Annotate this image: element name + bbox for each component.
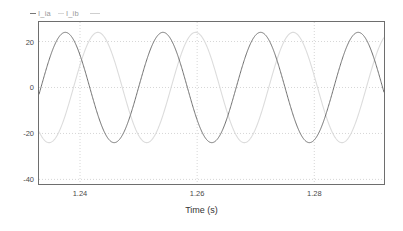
x-tick-label: 1.26 — [177, 189, 217, 198]
x-tick-label: 1.28 — [294, 189, 334, 198]
x-tick-label: 1.24 — [60, 189, 100, 198]
chart-figure: I_ia I_ib 200-20-40 1.241.261.28 Time (s… — [0, 0, 403, 231]
x-axis-ticks: 1.241.261.28 — [0, 0, 403, 231]
x-axis-label: Time (s) — [0, 205, 403, 215]
